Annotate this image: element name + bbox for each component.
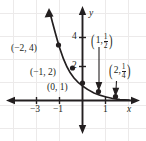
x-axis	[6, 97, 140, 104]
x-axis-left-arrowhead	[6, 97, 15, 104]
fraction-denominator: 2	[104, 41, 108, 50]
y-axis-top-arrowhead	[79, 6, 86, 15]
point-label-0-1: (0, 1)	[47, 83, 68, 93]
point-label-2-quarter: ( 2 , 1 4 )	[108, 63, 132, 79]
fraction-numerator: 1	[104, 33, 108, 41]
x-tick-label-neg1: −1	[53, 105, 63, 115]
fraction-numerator: 1	[122, 63, 126, 71]
data-point-0-1	[80, 80, 85, 85]
y-axis-name-label: y	[89, 9, 93, 19]
y-tick-label-4: 4	[72, 32, 77, 42]
y-axis-bottom-arrowhead	[79, 125, 86, 134]
paren-open-icon: (	[109, 64, 113, 78]
exponential-decay-graph-figure: (−2, 4) (−1, 2) (0, 1) ( 1 , 1 2 ) ( 2 ,…	[0, 0, 146, 141]
fraction-one-quarter: 1 4	[122, 63, 126, 79]
leader-arrowhead-1-half	[96, 83, 101, 90]
point-label-neg2-4: (−2, 4)	[11, 44, 37, 54]
fraction-denominator: 4	[122, 71, 126, 80]
curve-top-arrowhead	[45, 8, 54, 17]
data-point-neg2-4	[56, 42, 61, 47]
x-axis-right-arrowhead	[131, 97, 140, 104]
y-tick-label-2: 2	[72, 61, 77, 71]
x-tick-label-1: 1	[103, 105, 108, 115]
point-label-neg1-2: (−1, 2)	[30, 68, 56, 78]
paren-open-icon: (	[91, 34, 95, 48]
fraction-one-half: 1 2	[104, 33, 108, 49]
paren-close-icon: )	[109, 34, 113, 48]
y-axis	[79, 6, 86, 134]
x-tick-label-neg3: −3	[30, 105, 40, 115]
point-label-1-half: ( 1 , 1 2 )	[90, 33, 114, 49]
leader-arrowhead-2-quarter	[113, 88, 118, 95]
x-axis-name-label: x	[127, 105, 131, 115]
paren-close-icon: )	[127, 64, 131, 78]
